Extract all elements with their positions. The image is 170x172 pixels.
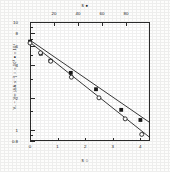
data-point-open-circle [28, 41, 32, 45]
series-fit-line [30, 42, 150, 137]
data-point-filled-square [119, 108, 123, 112]
data-point-open-circle [97, 96, 101, 100]
data-point-open-circle [49, 59, 53, 63]
series-fit-line [30, 40, 150, 123]
data-layer [0, 0, 170, 172]
data-point-filled-square [139, 118, 143, 122]
figure-container: s ● s ○ V₀ − V∞ (ΔA·s⁻¹) ○ = 10³ ● = 10⁴… [0, 0, 170, 172]
series-fit-lines [30, 40, 150, 137]
data-point-open-circle [38, 51, 42, 55]
data-point-filled-square [94, 87, 98, 91]
data-point-open-circle [69, 75, 73, 79]
data-point-open-circle [140, 132, 144, 136]
data-point-open-circle [123, 117, 127, 121]
data-point-filled-square [69, 71, 73, 75]
